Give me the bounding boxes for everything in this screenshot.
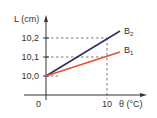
series-b2-label-sub: 2 [130, 31, 134, 37]
x-axis-arrow-icon [140, 93, 147, 97]
x-axis-label: θ (°C) [119, 99, 143, 109]
chart: L (cm) 10,2 10,1 10,0 0 10 θ (°C) B2 B1 [0, 0, 157, 118]
y-axis-arrow-icon [44, 15, 48, 22]
y-tick-label: 10,0 [21, 71, 39, 81]
series-b1-label: B1 [124, 45, 134, 56]
series-b2-label: B2 [124, 26, 134, 37]
y-tick-label: 10,1 [21, 52, 39, 62]
series-b1-label-sub: 1 [130, 50, 134, 56]
y-axis-label: L (cm) [14, 14, 39, 24]
guide-lines [46, 38, 107, 99]
y-tick-label: 10,2 [21, 33, 39, 43]
series-b1-line [46, 52, 120, 76]
x-tick-label: 10 [102, 99, 112, 109]
x-tick-label: 0 [36, 99, 41, 109]
